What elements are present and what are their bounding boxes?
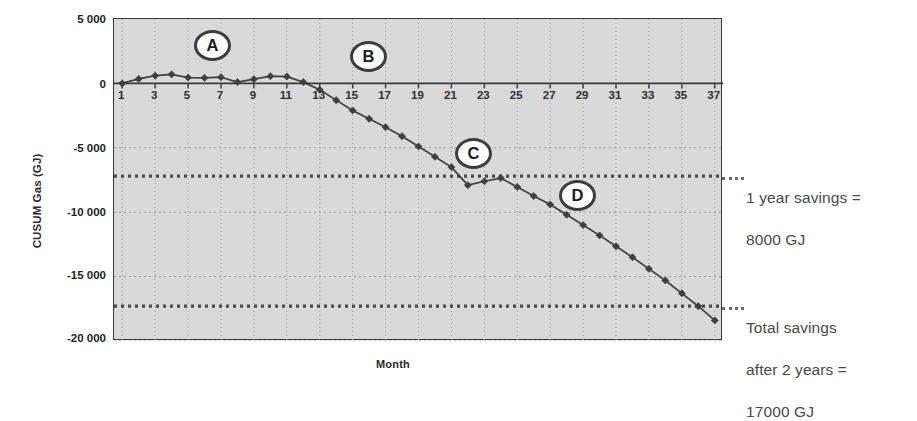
callout-b: B [350, 41, 387, 72]
annotation-total-line2: after 2 years = [746, 359, 847, 380]
y-tick-label: -20 000 [18, 332, 106, 344]
x-tick-label: 9 [240, 89, 266, 101]
x-tick-label: 33 [635, 89, 661, 101]
x-tick-label: 25 [503, 89, 529, 101]
annotation-one-year-line1: 1 year savings = [746, 187, 861, 208]
x-tick-label: 35 [668, 89, 694, 101]
x-tick-label: 37 [701, 89, 727, 101]
plot-area [113, 18, 722, 340]
gridlines [114, 19, 723, 341]
x-tick-label: 1 [108, 89, 134, 101]
x-tick-label: 11 [273, 89, 299, 101]
callout-c: C [455, 138, 492, 169]
x-tick-label: 7 [207, 89, 233, 101]
x-tick-label: 27 [536, 89, 562, 101]
x-tick-label: 17 [372, 89, 398, 101]
x-tick-label: 19 [405, 89, 431, 101]
leader-line-one-year [722, 177, 744, 180]
y-tick-label: -15 000 [18, 269, 106, 281]
x-tick-label: 29 [569, 89, 595, 101]
y-tick-label: 0 [18, 78, 106, 90]
callout-d: D [559, 180, 596, 211]
annotation-one-year-line2: 8000 GJ [746, 229, 861, 250]
annotation-one-year-savings: 1 year savings = 8000 GJ [746, 166, 861, 271]
annotation-total-savings: Total savings after 2 years = 17000 GJ [746, 296, 847, 421]
x-tick-label: 15 [339, 89, 365, 101]
y-tick-label: -5 000 [18, 142, 106, 154]
annotation-total-line1: Total savings [746, 317, 847, 338]
leader-line-total [722, 307, 744, 310]
x-axis-title: Month [338, 358, 448, 370]
plot-svg [114, 19, 723, 341]
y-tick-label: -10 000 [18, 206, 106, 218]
x-tick-label: 23 [470, 89, 496, 101]
y-tick-label: 5 000 [18, 13, 106, 25]
x-tick-label: 3 [141, 89, 167, 101]
x-tick-label: 13 [306, 89, 332, 101]
x-tick-label: 31 [602, 89, 628, 101]
callout-a: A [194, 30, 231, 61]
x-tick-label: 21 [437, 89, 463, 101]
data-point-markers [119, 71, 719, 324]
annotation-total-line3: 17000 GJ [746, 401, 847, 421]
x-tick-label: 5 [174, 89, 200, 101]
